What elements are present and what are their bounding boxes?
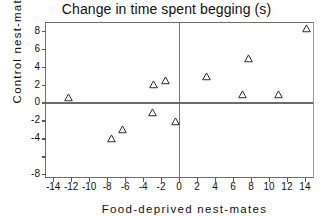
x-axis-tick-label: -6 <box>121 182 130 192</box>
x-axis-tick-label: 10 <box>263 182 274 192</box>
x-axis-tick-label: 4 <box>212 182 218 192</box>
y-axis-tick <box>42 67 47 68</box>
x-axis-tick-label: 8 <box>248 182 254 192</box>
y-axis-tick <box>42 49 47 50</box>
y-axis-tick <box>42 138 47 139</box>
data-point-marker <box>238 90 247 99</box>
x-axis-tick-label: -12 <box>64 182 78 192</box>
y-axis-tick <box>42 174 47 175</box>
y-axis-tick <box>42 120 47 121</box>
data-point-marker <box>118 125 127 134</box>
y-axis-tick <box>42 85 47 86</box>
horizontal-reference-line <box>46 102 313 103</box>
data-point-marker <box>202 72 211 81</box>
x-axis-tick-label: -10 <box>82 182 96 192</box>
x-axis-tick-label: 14 <box>299 182 310 192</box>
data-point-marker <box>148 108 157 117</box>
y-axis-tick-label: 4 <box>34 62 40 72</box>
y-axis-tick-label: 6 <box>34 44 40 54</box>
plot-inner: 86420-2-4-8-14-12-10-8-6-4-202468101214 <box>46 23 313 177</box>
data-point-marker <box>274 90 283 99</box>
data-point-marker <box>107 134 116 143</box>
plot-area: 86420-2-4-8-14-12-10-8-6-4-202468101214 <box>45 22 314 178</box>
data-point-marker <box>161 76 170 85</box>
y-axis-tick-label: 2 <box>34 80 40 90</box>
x-axis-tick-label: 2 <box>194 182 200 192</box>
data-point-marker <box>149 80 158 89</box>
x-axis-tick-label: 6 <box>230 182 236 192</box>
chart-title: Change in time spent begging (s) <box>0 1 333 17</box>
x-axis-tick-label: -2 <box>157 182 166 192</box>
y-axis-label: Control nest-mates <box>11 0 23 119</box>
x-axis-tick-label: -4 <box>139 182 148 192</box>
data-point-marker <box>64 93 73 102</box>
x-axis-label: Food-deprived nest-mates <box>40 203 329 215</box>
x-axis-tick-label: 0 <box>176 182 182 192</box>
scatter-chart-figure: Change in time spent begging (s) Control… <box>0 0 333 216</box>
x-axis-tick-label: 12 <box>281 182 292 192</box>
y-axis-tick <box>42 102 47 103</box>
y-axis-tick <box>42 156 47 157</box>
data-point-marker <box>302 24 311 33</box>
y-axis-tick <box>42 31 47 32</box>
y-axis-tick-label: 0 <box>34 97 40 107</box>
x-axis-tick-label: -14 <box>46 182 60 192</box>
data-point-marker <box>244 54 253 63</box>
y-axis-tick-label: -8 <box>31 169 40 179</box>
vertical-reference-line <box>179 23 180 177</box>
y-axis-tick-label: 8 <box>34 26 40 36</box>
y-axis-tick-label: -2 <box>31 115 40 125</box>
y-axis-tick-label: -4 <box>31 133 40 143</box>
x-axis-tick-label: -8 <box>103 182 112 192</box>
